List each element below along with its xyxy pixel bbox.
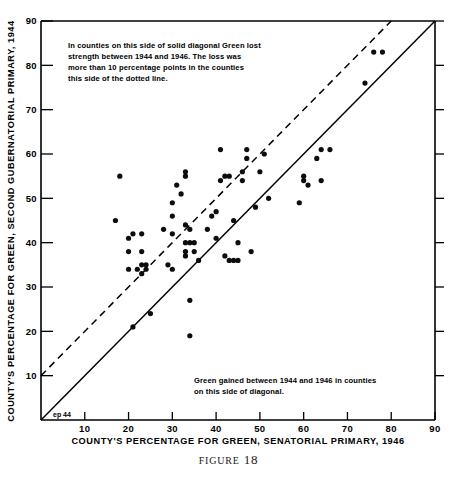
data-point xyxy=(113,218,118,223)
data-point xyxy=(262,151,267,156)
y-axis-title: COUNTY'S PERCENTAGE FOR GREEN, SECOND GU… xyxy=(6,20,16,422)
data-point xyxy=(126,267,131,272)
data-point xyxy=(209,213,214,218)
data-point xyxy=(218,178,223,183)
data-point xyxy=(161,227,166,232)
y-tick-label: 50 xyxy=(26,193,37,204)
y-axis-tick-labels: 102030405060708090 xyxy=(26,15,37,381)
data-point xyxy=(266,196,271,201)
y-tick-label: 30 xyxy=(26,281,37,292)
data-point xyxy=(297,200,302,205)
data-point xyxy=(187,333,192,338)
data-point xyxy=(183,169,188,174)
x-tick-label: 60 xyxy=(298,423,309,434)
figure-caption-number: 18 xyxy=(244,452,259,467)
data-point xyxy=(192,240,197,245)
data-point xyxy=(205,227,210,232)
data-point xyxy=(314,156,319,161)
data-point xyxy=(139,271,144,276)
data-point xyxy=(235,240,240,245)
data-point xyxy=(301,174,306,179)
data-point xyxy=(319,178,324,183)
lower-right-note-line: on this side of diagonal. xyxy=(194,387,284,396)
upper-left-note-line: strength between 1944 and 1946. The loss… xyxy=(68,52,241,61)
x-tick-label: 80 xyxy=(386,423,397,434)
x-tick-label: 70 xyxy=(342,423,353,434)
data-point xyxy=(240,178,245,183)
data-point xyxy=(165,262,170,267)
y-tick-label: 70 xyxy=(26,104,37,115)
data-point xyxy=(139,231,144,236)
data-point xyxy=(196,258,201,263)
data-point xyxy=(371,49,376,54)
right-axis-ticks xyxy=(435,21,444,376)
x-tick-label: 40 xyxy=(210,423,221,434)
scatter-plot: 102030405060708090 102030405060708090 In… xyxy=(0,0,457,452)
data-point xyxy=(187,227,192,232)
data-point xyxy=(183,222,188,227)
data-point xyxy=(170,267,175,272)
data-point xyxy=(170,200,175,205)
data-point xyxy=(130,231,135,236)
y-tick-label: 80 xyxy=(26,60,37,71)
upper-left-note-line: more than 10 percentage points in the co… xyxy=(68,63,244,72)
data-point xyxy=(244,156,249,161)
data-point xyxy=(301,178,306,183)
data-point xyxy=(183,249,188,254)
data-point xyxy=(222,253,227,258)
y-axis-ticks xyxy=(41,21,53,376)
data-point xyxy=(143,262,148,267)
upper-left-note-line: In counties on this side of solid diagon… xyxy=(68,41,261,50)
data-point xyxy=(192,249,197,254)
x-tick-label: 90 xyxy=(429,423,440,434)
data-point xyxy=(257,169,262,174)
y-tick-label: 40 xyxy=(26,237,37,248)
data-point xyxy=(148,311,153,316)
data-point xyxy=(183,174,188,179)
data-point xyxy=(214,236,219,241)
data-point xyxy=(170,213,175,218)
data-point xyxy=(218,147,223,152)
data-point xyxy=(117,174,122,179)
data-point xyxy=(214,209,219,214)
data-point xyxy=(244,147,249,152)
y-tick-label: 90 xyxy=(26,15,37,26)
data-point xyxy=(170,231,175,236)
data-point xyxy=(183,253,188,258)
data-point xyxy=(126,249,131,254)
data-point xyxy=(362,80,367,85)
x-tick-label: 30 xyxy=(167,423,178,434)
data-point xyxy=(174,182,179,187)
data-point xyxy=(240,169,245,174)
data-point xyxy=(178,191,183,196)
y-tick-label: 10 xyxy=(26,370,37,381)
y-tick-label: 60 xyxy=(26,148,37,159)
x-axis-ticks xyxy=(85,412,435,420)
upper-left-note-line: this side of the dotted line. xyxy=(68,74,168,83)
data-point xyxy=(253,205,258,210)
data-point xyxy=(380,49,385,54)
data-point xyxy=(249,249,254,254)
plate-corner-mark: ep 44 xyxy=(53,411,71,419)
data-point xyxy=(143,267,148,272)
x-axis-tick-labels: 102030405060708090 xyxy=(79,423,441,434)
x-tick-label: 50 xyxy=(254,423,265,434)
data-point xyxy=(130,324,135,329)
x-tick-label: 20 xyxy=(123,423,134,434)
data-point xyxy=(231,218,236,223)
figure-caption: FIGURE18 xyxy=(0,452,457,468)
x-axis-title: COUNTY'S PERCENTAGE FOR GREEN, SENATORIA… xyxy=(71,436,404,446)
lower-right-note-line: Green gained between 1944 and 1946 in co… xyxy=(194,376,376,385)
x-tick-label: 10 xyxy=(79,423,90,434)
figure-caption-word: FIGURE xyxy=(199,455,240,466)
data-point xyxy=(235,258,240,263)
data-point xyxy=(139,249,144,254)
data-point xyxy=(126,236,131,241)
figure-container: 102030405060708090 102030405060708090 In… xyxy=(0,0,457,478)
y-tick-label: 20 xyxy=(26,326,37,337)
lower-right-annotation: Green gained between 1944 and 1946 in co… xyxy=(194,376,376,396)
upper-left-annotation: In counties on this side of solid diagon… xyxy=(68,41,261,83)
data-point xyxy=(135,267,140,272)
data-point-series xyxy=(113,49,385,338)
data-point xyxy=(319,147,324,152)
